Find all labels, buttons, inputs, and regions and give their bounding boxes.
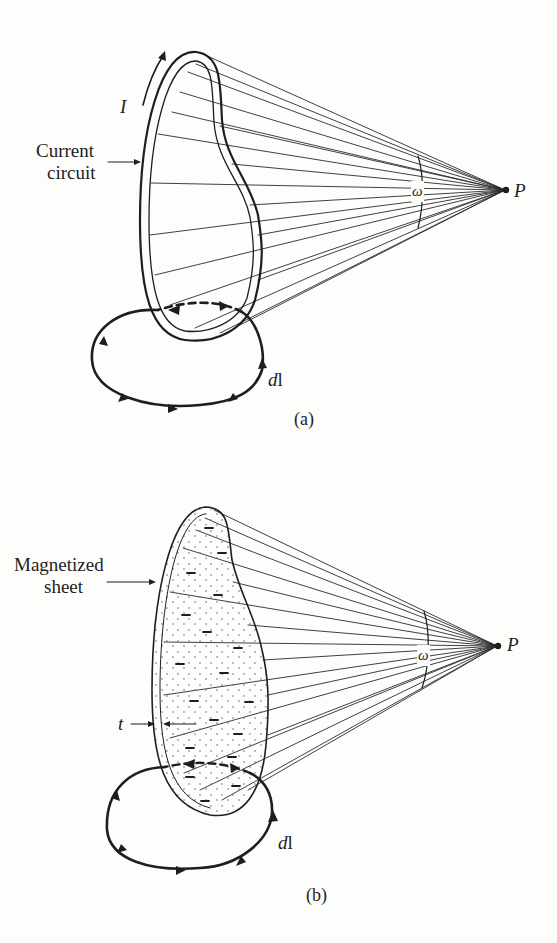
label-thickness-t: t	[118, 713, 123, 734]
figure-b-drawing	[0, 0, 557, 943]
magnetized-sheet	[152, 507, 268, 816]
label-magnetized-sheet-line1: Magnetized	[14, 554, 104, 575]
point-p-dot	[495, 643, 501, 649]
caption-b: (b)	[306, 885, 327, 906]
label-point-p-b: P	[507, 634, 519, 655]
label-solid-angle-b: ω	[417, 645, 430, 666]
label-line-element-b: dl	[278, 832, 293, 853]
label-magnetized-sheet-line2: sheet	[44, 576, 83, 597]
